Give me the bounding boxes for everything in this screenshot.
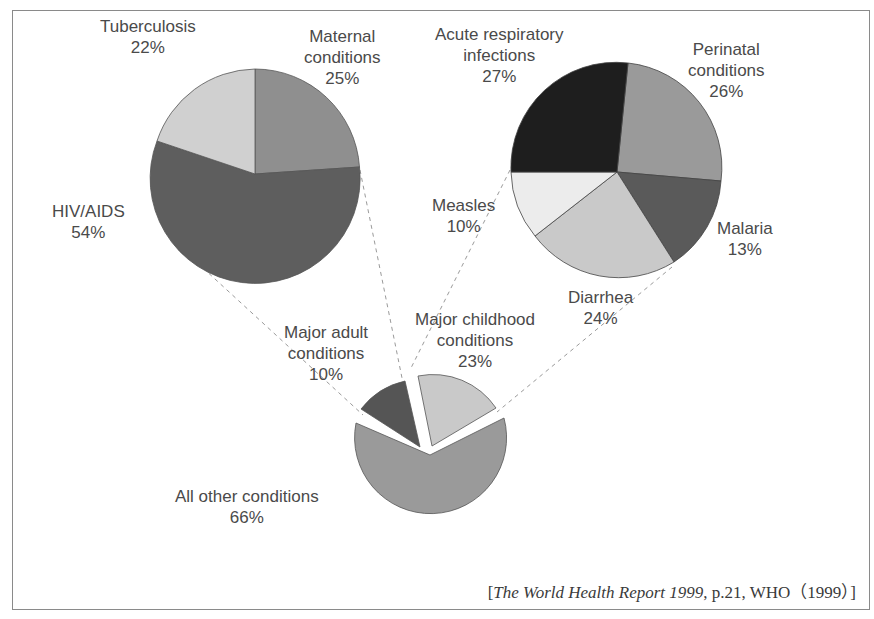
label-major-adult: Major adultconditions10% bbox=[284, 322, 368, 385]
label-malaria: Malaria13% bbox=[717, 218, 773, 260]
source-citation: [The World Health Report 1999, p.21, WHO… bbox=[488, 578, 856, 603]
label-acute-respiratory: Acute respiratoryinfections27% bbox=[435, 24, 564, 87]
label-diarrhea: Diarrhea24% bbox=[568, 287, 633, 329]
label-all-other: All other conditions66% bbox=[175, 486, 319, 528]
overall-pie bbox=[355, 375, 507, 514]
label-tuberculosis: Tuberculosis22% bbox=[100, 16, 196, 58]
label-major-childhood: Major childhoodconditions23% bbox=[415, 309, 535, 372]
adult-conditions-pie bbox=[150, 69, 360, 283]
label-perinatal: Perinatalconditions26% bbox=[688, 39, 765, 102]
label-maternal: Maternalconditions25% bbox=[304, 26, 381, 89]
label-measles: Measles10% bbox=[432, 195, 495, 237]
label-hiv-aids: HIV/AIDS54% bbox=[52, 201, 125, 243]
